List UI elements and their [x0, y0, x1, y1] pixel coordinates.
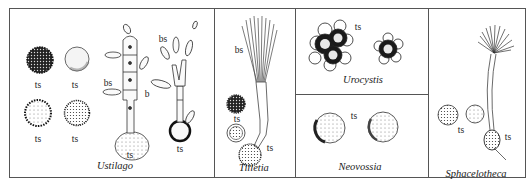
- tilletia-teliospore-reticulate: [227, 95, 245, 113]
- panel-neovossia: ts Neovossia: [295, 94, 428, 178]
- sphacelotheca-teliospore-germinating: [484, 130, 506, 160]
- label-ts: ts: [72, 80, 78, 90]
- panel-urocystis: ts Urocystis: [295, 8, 428, 94]
- label-ts: ts: [505, 132, 511, 142]
- teliospore-reticulate: [65, 101, 90, 126]
- panel-tilletia: bs ts ts Tilletia: [214, 0, 295, 187]
- label-bs: bs: [159, 34, 167, 44]
- label-ts: ts: [458, 125, 464, 135]
- panel-title-sphacelotheca: Sphacelotheca: [445, 168, 506, 179]
- urocystis-spore-ball-small: [374, 33, 403, 64]
- teliospore-smooth: [65, 47, 89, 71]
- label-ts: ts: [35, 80, 41, 90]
- tilletia-illustration: [214, 0, 295, 187]
- sphacelotheca-teliospore-1: [438, 105, 458, 125]
- urocystis-spore-ball-large: [309, 20, 353, 71]
- sphacelotheca-teliospore-2: [466, 105, 484, 123]
- label-ts: ts: [35, 134, 41, 144]
- sphacelotheca-promycelium: [487, 54, 496, 130]
- label-ts: ts: [234, 114, 240, 124]
- label-ts: ts: [72, 134, 78, 144]
- panel-title-urocystis: Urocystis: [343, 74, 383, 85]
- label-ts: ts: [355, 22, 361, 32]
- panel-ustilago: ts ts ts ts bs b ts bs ts Ustilago: [0, 0, 214, 187]
- label-bs: bs: [235, 45, 243, 55]
- sphacelotheca-illustration: [428, 8, 526, 178]
- teliospore-spiny-light: [25, 100, 51, 126]
- panel-title-ustilago: Ustilago: [97, 160, 133, 171]
- panel-title-tilletia: Tilletia: [239, 162, 269, 173]
- label-ts: ts: [351, 111, 357, 121]
- label-b: b: [145, 89, 150, 99]
- neovossia-teliospore-left: [315, 113, 345, 143]
- panel-title-neovossia: Neovossia: [338, 161, 381, 172]
- tilletia-promycelium: [254, 82, 268, 148]
- label-bs: bs: [104, 78, 112, 88]
- label-ts: ts: [177, 144, 183, 154]
- ustilago-basidium-branched: [150, 21, 198, 141]
- sphacelotheca-basidiospore-tuft: [478, 25, 514, 53]
- ustilago-illustration: [0, 0, 214, 187]
- neovossia-teliospore-right: [368, 112, 398, 142]
- label-ts: ts: [267, 143, 273, 153]
- teliospore-dark-spiny: [27, 47, 53, 73]
- tilletia-teliospore-section: [227, 124, 245, 142]
- label-ts: ts: [127, 150, 133, 160]
- ustilago-basidium-septate: [103, 23, 150, 160]
- panel-sphacelotheca: ts ts Sphacelotheca: [428, 8, 526, 178]
- tilletia-basidiospores: [242, 16, 277, 82]
